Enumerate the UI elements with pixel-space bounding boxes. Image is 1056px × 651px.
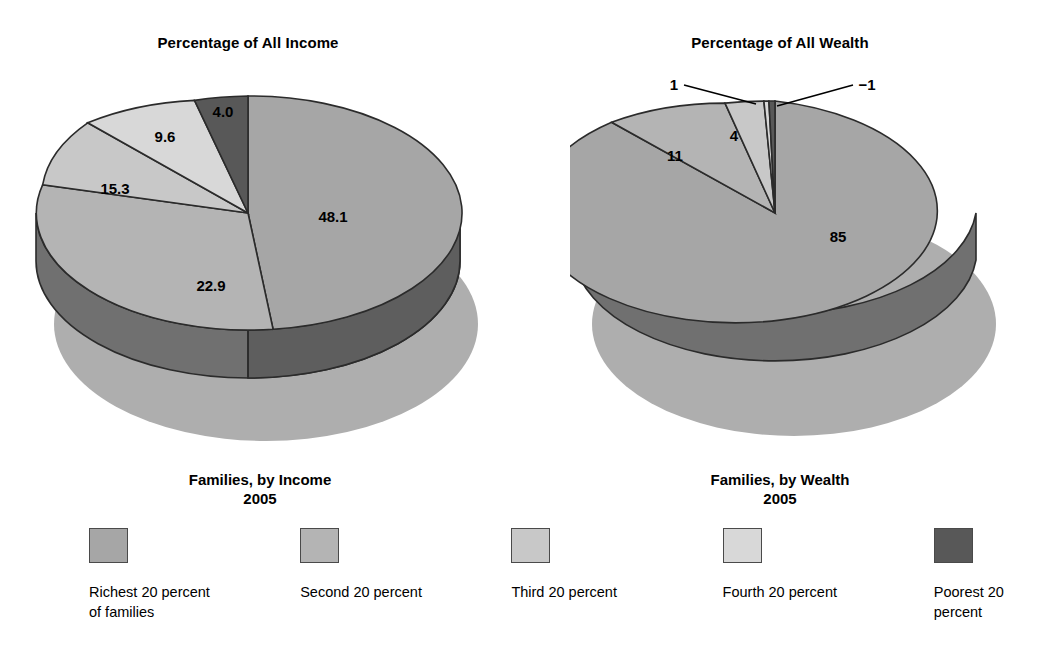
wealth-chart-title: Percentage of All Wealth [560, 34, 1000, 51]
wealth-caption-line1: Families, by Wealth [580, 470, 980, 489]
wealth-pie-chart: 85 11 4 1 −1 [570, 74, 1020, 474]
legend-swatch-third [511, 528, 550, 563]
wealth-label-fourth: 1 [670, 76, 678, 93]
legend-swatch-richest [89, 528, 128, 563]
income-label-richest: 48.1 [318, 208, 347, 225]
income-label-third: 15.3 [100, 180, 129, 197]
income-label-second: 22.9 [196, 277, 225, 294]
wealth-label-richest: 85 [830, 228, 847, 245]
wealth-label-poorest: −1 [858, 76, 875, 93]
wealth-leader-line-poorest [777, 85, 853, 106]
income-label-fourth: 9.6 [155, 128, 176, 145]
legend-label-second: Second 20 percent [211, 582, 422, 602]
legend-label-fourth: Fourth 20 percent [634, 582, 845, 602]
income-label-poorest: 4.0 [213, 103, 234, 120]
income-chart-title: Percentage of All Income [0, 34, 496, 51]
legend-item-second: Second 20 percent [211, 528, 422, 638]
legend-swatch-poorest [934, 528, 973, 563]
legend-swatch-fourth [723, 528, 762, 563]
income-pie-chart: 48.1 22.9 15.3 9.6 4.0 [18, 74, 488, 474]
income-caption-line1: Families, by Income [40, 470, 480, 489]
wealth-caption-year: 2005 [580, 489, 980, 508]
figure-canvas: Percentage of All Income Percentage of A… [0, 0, 1056, 651]
legend-item-fourth: Fourth 20 percent [634, 528, 845, 638]
legend-label-poorest: Poorest 20 percent [845, 582, 1056, 622]
legend-item-poorest: Poorest 20 percent [845, 528, 1056, 638]
chart-legend: Richest 20 percent of families Second 20… [0, 528, 1056, 638]
legend-label-third: Third 20 percent [422, 582, 633, 602]
wealth-leader-line-fourth [684, 85, 756, 104]
legend-label-richest: Richest 20 percent of families [0, 582, 211, 622]
wealth-label-third: 4 [730, 127, 739, 144]
legend-swatch-second [300, 528, 339, 563]
income-caption-year: 2005 [40, 489, 480, 508]
legend-item-richest: Richest 20 percent of families [0, 528, 211, 638]
wealth-label-second: 11 [667, 147, 683, 164]
legend-item-third: Third 20 percent [422, 528, 633, 638]
income-chart-caption: Families, by Income 2005 [40, 470, 480, 508]
wealth-chart-caption: Families, by Wealth 2005 [580, 470, 980, 508]
